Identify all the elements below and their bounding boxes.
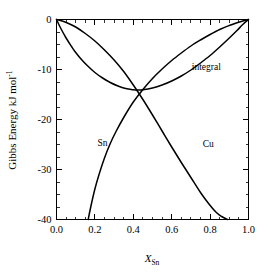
x-tick-label: 0.2 [88,224,101,235]
x-axis-title-sub: Sn [151,258,159,267]
y-tick-label: 0 [46,14,51,25]
ticks-group [57,20,249,220]
x-tick-label: 0.0 [50,224,63,235]
y-tick-label: -30 [38,164,52,175]
plot-frame [57,20,249,220]
x-tick-label: 1.0 [242,224,255,235]
x-axis-title: XSn [144,252,160,267]
curve-Cu [57,20,228,220]
x-tick-label: 0.4 [127,224,141,235]
curve-Sn [88,20,248,220]
x-tick-label: 0.6 [165,224,178,235]
y-tick-label: -10 [38,64,52,75]
tick-labels-group: 0.00.20.40.60.81.00-10-20-30-40 [38,14,256,234]
y-axis-title-sup: -1 [5,70,14,76]
x-tick-label: 0.8 [204,224,217,235]
y-axis-title-base: Gibbs Energy kJ mol [6,77,18,170]
curve-label-Cu: Cu [203,139,214,149]
annotations-group: integralSnCu [98,62,222,150]
curve-label-Sn: Sn [98,138,108,148]
y-tick-label: -20 [38,114,52,125]
curves-group [57,20,249,220]
curve-label-integral: integral [192,62,221,72]
gibbs-energy-chart: 0.00.20.40.60.81.00-10-20-30-40 integral… [0,0,273,277]
y-axis-title: Gibbs Energy kJ mol-1 [5,70,18,169]
plot-svg: 0.00.20.40.60.81.00-10-20-30-40 integral… [0,0,273,277]
y-tick-label: -40 [38,214,52,225]
